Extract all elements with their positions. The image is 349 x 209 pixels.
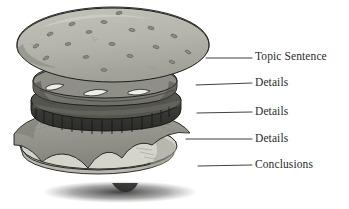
leader-lines	[186, 58, 252, 166]
label-details-3: Details	[255, 132, 288, 144]
leader-line-conclusions	[198, 165, 252, 166]
label-details-1: Details	[255, 76, 288, 88]
label-topic-sentence: Topic Sentence	[255, 50, 327, 62]
leader-line-details-1	[196, 83, 252, 85]
hamburger-illustration	[0, 0, 349, 209]
label-details-2: Details	[255, 105, 288, 117]
leader-line-details-2	[197, 112, 252, 113]
shadow-group	[42, 181, 198, 203]
label-conclusions: Conclusions	[255, 158, 313, 170]
layer-top-bun	[17, 7, 209, 82]
hamburger-diagram: Topic Sentence Details Details Details C…	[0, 0, 349, 209]
